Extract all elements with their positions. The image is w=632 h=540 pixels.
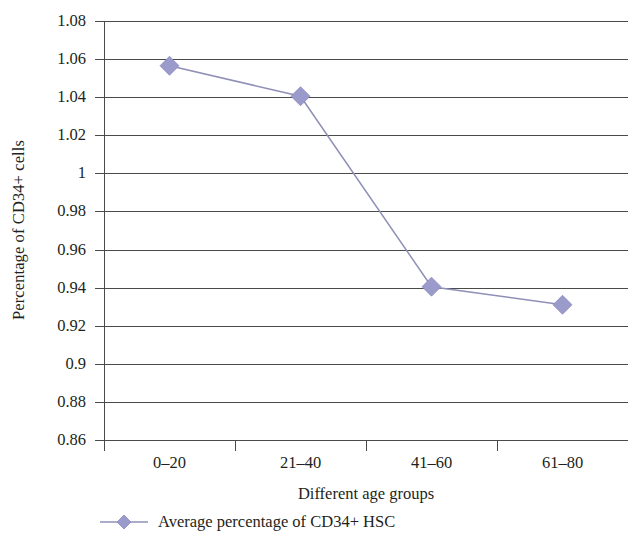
y-axis-tick-mark [95,402,104,403]
x-axis-tick-label: 21–40 [231,455,371,472]
y-axis-tick-mark [95,21,104,22]
y-axis-tick-label: 0.98 [6,203,86,220]
y-axis-tick-label: 0.9 [6,356,86,373]
legend-marker-diamond-icon [100,513,148,531]
y-axis-tick-mark [95,288,104,289]
x-axis-tick-mark [235,440,236,451]
y-axis-tick-mark [95,59,104,60]
data-series-layer [104,21,628,440]
y-axis-tick-mark [95,211,104,212]
x-axis-tick-label: 61–80 [493,455,632,472]
y-axis-tick-label: 1.02 [6,127,86,144]
x-axis-tick-label: 0–20 [100,455,240,472]
x-axis-tick-mark [366,440,367,451]
y-axis-tick-label: 0.86 [6,432,86,449]
x-axis-tick-mark [497,440,498,451]
chart-legend: Average percentage of CD34+ HSC [100,512,395,532]
y-axis-tick-label: 1 [6,165,86,182]
y-axis-tick-mark [95,250,104,251]
data-point-marker [160,56,179,75]
y-axis-tick-mark [95,97,104,98]
data-point-marker [291,87,310,106]
y-axis-tick-mark [95,364,104,365]
y-axis-tick-label: 1.08 [6,13,86,30]
data-point-marker [422,277,441,296]
data-point-marker [553,295,572,314]
x-axis-tick-mark [104,440,105,451]
y-axis-tick-mark [95,173,104,174]
y-axis-tick-mark [95,440,104,441]
y-axis-tick-label: 1.04 [6,89,86,106]
x-axis-tick-label: 41–60 [362,455,502,472]
y-axis-tick-mark [95,135,104,136]
y-axis-tick-mark [95,326,104,327]
x-axis-title: Different age groups [104,484,628,504]
series-line [170,66,563,305]
legend-label: Average percentage of CD34+ HSC [158,512,395,532]
y-axis-title: Percentage of CD34+ cells [6,0,32,460]
y-axis-tick-label: 1.06 [6,51,86,68]
y-axis-tick-label: 0.94 [6,279,86,296]
y-axis-tick-label: 0.92 [6,317,86,334]
y-axis-tick-label: 0.88 [6,394,86,411]
y-axis-tick-label: 0.96 [6,241,86,258]
